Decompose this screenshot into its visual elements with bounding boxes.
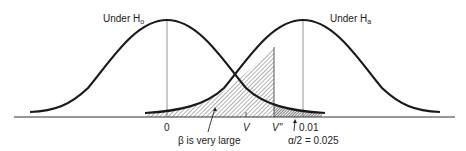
zero-label: 0 (164, 123, 170, 133)
v-label: V (243, 123, 250, 133)
beta-region (145, 47, 274, 117)
hypothesis-test-diagram: Under Ho Under Ha 0 V V'' 0.01 β is very… (0, 0, 466, 151)
alpha-pointer-head (293, 119, 297, 123)
ha-label: Under Ha (330, 14, 371, 25)
distribution-plot (0, 0, 466, 151)
beta-annotation: β is very large (178, 136, 240, 146)
alpha-annotation: α/2 = 0.025 (288, 136, 339, 146)
ha-curve (145, 20, 440, 113)
h0-label: Under Ho (103, 14, 144, 25)
point-01-label: 0.01 (299, 123, 318, 133)
h0-curve (30, 20, 325, 113)
v-double-prime-label: V'' (272, 123, 283, 133)
